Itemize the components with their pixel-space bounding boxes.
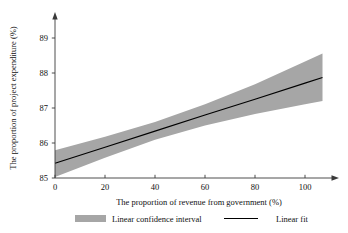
x-axis-ticks bbox=[55, 175, 305, 178]
x-tick-label: 20 bbox=[101, 182, 110, 192]
y-tick-label: 87 bbox=[40, 103, 49, 113]
y-axis-title: The proportion of project expenditure (%… bbox=[8, 26, 18, 169]
y-axis-tick-labels: 8586878889 bbox=[40, 33, 49, 183]
x-tick-label: 100 bbox=[299, 182, 312, 192]
x-tick-label: 0 bbox=[53, 182, 57, 192]
linear-fit-chart: 8586878889 020406080100 The proportion o… bbox=[0, 0, 348, 233]
x-axis-tick-labels: 020406080100 bbox=[53, 182, 312, 192]
y-tick-label: 85 bbox=[40, 173, 49, 183]
x-tick-label: 60 bbox=[201, 182, 210, 192]
x-tick-label: 40 bbox=[151, 182, 160, 192]
legend-label-confidence-interval: Linear confidence interval bbox=[112, 214, 202, 224]
x-axis: 020406080100 bbox=[53, 175, 339, 192]
chart-figure: 8586878889 020406080100 The proportion o… bbox=[0, 0, 348, 233]
legend-swatch-confidence-interval bbox=[75, 215, 106, 222]
legend-label-linear-fit: Linear fit bbox=[276, 214, 308, 224]
confidence-interval-band bbox=[55, 53, 323, 177]
y-axis-ticks bbox=[52, 38, 55, 178]
linear-fit-line bbox=[55, 78, 323, 164]
x-tick-label: 80 bbox=[251, 182, 260, 192]
y-tick-label: 88 bbox=[40, 68, 49, 78]
x-axis-title: The proportion of revenue from governmen… bbox=[116, 197, 282, 207]
y-tick-label: 89 bbox=[40, 33, 49, 43]
y-tick-label: 86 bbox=[40, 138, 49, 148]
x-axis-arrow-icon bbox=[332, 175, 340, 180]
y-axis: 8586878889 bbox=[40, 12, 58, 183]
chart-legend: Linear confidence interval Linear fit bbox=[75, 214, 308, 224]
y-axis-arrow-icon bbox=[52, 12, 57, 20]
